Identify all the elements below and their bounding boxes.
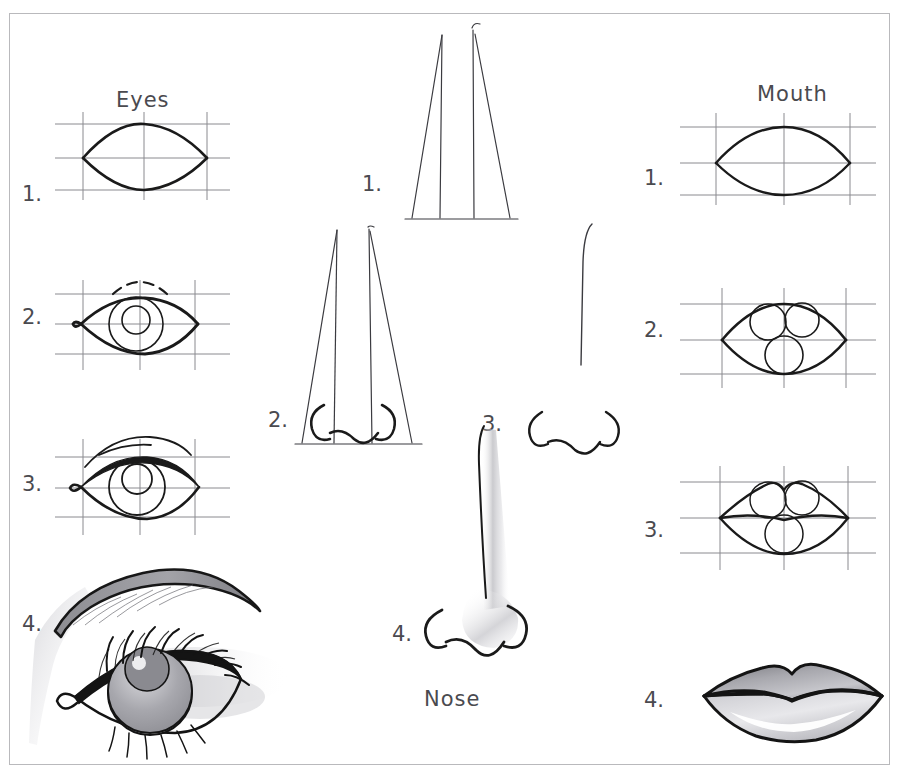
mouth-step-2-figure [680, 278, 880, 388]
mouth-step-4-number: 4. [644, 688, 664, 712]
eyes-step-3-number: 3. [22, 472, 42, 496]
eyes-step-2-figure [55, 262, 235, 372]
nose-step-1-figure [400, 20, 530, 235]
nose-step-4-figure [400, 420, 590, 670]
eyes-step-3-figure [55, 425, 235, 540]
mouth-column-label: Mouth [757, 82, 828, 106]
mouth-step-1-figure [680, 105, 880, 205]
mouth-step-3-number: 3. [644, 518, 664, 542]
mouth-step-1-number: 1. [644, 166, 664, 190]
eyes-column-label: Eyes [116, 88, 170, 112]
mouth-step-2-number: 2. [644, 318, 664, 342]
mouth-step-4-figure [690, 650, 895, 755]
eyes-step-4-figure [25, 545, 315, 770]
nose-step-2-number: 2. [268, 408, 288, 432]
nose-column-label: Nose [424, 687, 480, 711]
nose-step-1-number: 1. [362, 172, 382, 196]
drawing-sheet: Eyes 1. 2. [0, 0, 902, 774]
mouth-step-3-figure [680, 458, 880, 573]
eyes-step-1-figure [55, 110, 235, 200]
nose-bridge-guide-line [578, 222, 600, 367]
eyes-step-1-number: 1. [22, 182, 42, 206]
eyes-step-2-number: 2. [22, 305, 42, 329]
